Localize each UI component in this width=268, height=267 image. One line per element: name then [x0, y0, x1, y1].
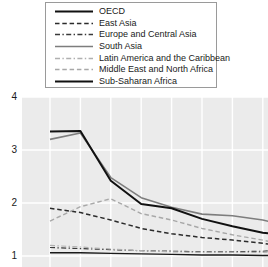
- y-tick-label-4: 4: [11, 92, 17, 102]
- y-tick-label-1: 1: [11, 251, 17, 261]
- legend-line-sample-icon: [55, 29, 93, 40]
- plot-canvas: [22, 97, 268, 267]
- chart-root: 4 3 2 1 OECD East Asia: [0, 0, 268, 267]
- legend-line-sample-icon: [55, 76, 93, 87]
- legend-item-oecd: OECD: [46, 6, 216, 18]
- plot-area: [22, 97, 268, 267]
- legend-label: Latin America and the Caribbean: [99, 54, 230, 63]
- legend-item-south-asia: South Asia: [46, 41, 216, 53]
- y-tick-label-2: 2: [11, 198, 17, 208]
- legend-item-sub-saharan-africa: Sub-Saharan Africa: [46, 76, 216, 88]
- legend-label: Sub-Saharan Africa: [99, 77, 177, 86]
- legend-line-sample-icon: [55, 64, 93, 75]
- legend-label: East Asia: [99, 19, 137, 28]
- chart-legend: OECD East Asia Europe and Central Asia: [45, 2, 217, 88]
- legend-line-sample-icon: [55, 18, 93, 29]
- legend-label: South Asia: [99, 42, 142, 51]
- series-line: [50, 131, 268, 236]
- legend-item-east-asia: East Asia: [46, 18, 216, 30]
- legend-label: Europe and Central Asia: [99, 30, 197, 39]
- legend-item-europe-central-asia: Europe and Central Asia: [46, 29, 216, 41]
- legend-line-sample-icon: [55, 53, 93, 64]
- series-line: [50, 245, 268, 252]
- legend-line-sample-icon: [55, 6, 93, 17]
- legend-label: Middle East and North Africa: [99, 65, 213, 74]
- legend-line-sample-icon: [55, 41, 93, 52]
- legend-label: OECD: [99, 7, 125, 16]
- y-tick-label-3: 3: [11, 145, 17, 155]
- y-axis: 4 3 2 1: [0, 0, 22, 267]
- legend-item-middle-east-north-africa: Middle East and North Africa: [46, 64, 216, 76]
- legend-item-latin-america-caribbean: Latin America and the Caribbean: [46, 52, 216, 64]
